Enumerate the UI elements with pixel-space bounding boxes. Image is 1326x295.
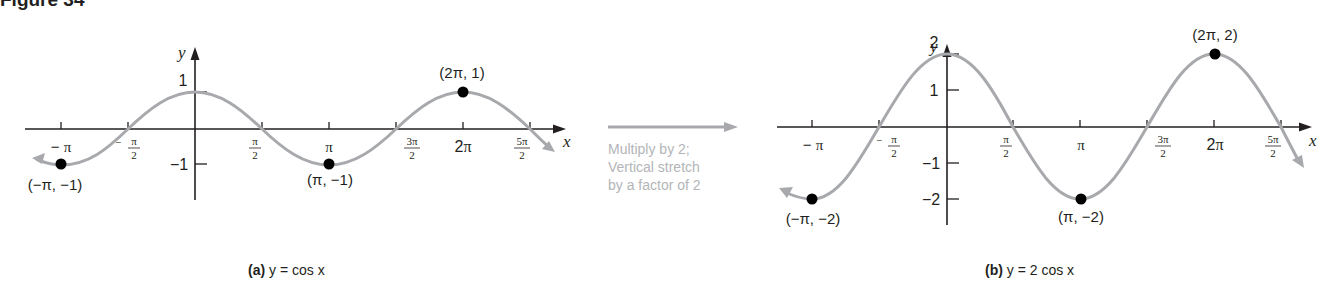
panel-b-y-label-neg1: −1 [922,155,940,172]
panel-b-x-label-neg-pi-over-2: − π 2 [876,133,900,159]
panel-a-y-label-1: 1 [179,72,188,89]
panel-b-graph: (−π, −2) (π, −2) (2π, 2) − π − π 2 π 2 π… [777,26,1317,227]
svg-text:2: 2 [1003,147,1009,159]
svg-text:π: π [131,135,137,147]
transform-arrow-icon [724,122,738,132]
panel-b-point-neg-pi [807,194,818,205]
panel-a-point-label-pi: (π, −1) [307,171,353,188]
panel-a-y-axis-arrow-icon [191,47,200,60]
panel-b-x-label-3pi-over-2: 3π 2 [1155,133,1171,159]
panel-a-caption: (a) y = cos x [248,262,325,278]
panel-b-curve-left-arrow-icon [779,187,793,198]
panel-b-x-label-neg-pi: − π [803,136,824,153]
panel-b-x-label-5pi-over-2: 5π 2 [1265,133,1281,159]
panel-a-x-label-5pi-over-2: 5π 2 [514,135,530,161]
panel-a-x-label-pi: π [325,139,333,155]
panel-a-point-pi [324,159,335,170]
svg-text:2: 2 [1270,147,1276,159]
svg-text:5π: 5π [1267,133,1279,145]
svg-text:2: 2 [252,149,258,161]
panel-a-x-axis-label: x [562,132,571,151]
svg-text:5π: 5π [516,135,528,147]
svg-text:3π: 3π [406,135,418,147]
panel-a-graph: (−π, −1) (π, −1) (2π, 1) − π − π 2 π 2 π… [25,43,571,200]
panel-a-x-label-neg-pi-over-2: − π 2 [115,135,140,161]
panel-a-caption-tag: (a) [248,262,265,278]
svg-text:−: − [876,134,882,146]
svg-text:2: 2 [409,149,415,161]
panel-a-caption-equation: y = cos x [269,262,325,278]
transform-annotation: Multiply by 2; Vertical stretch by a fac… [608,140,748,194]
transform-line-1: Multiply by 2; [608,140,748,158]
panel-b-point-label-pi: (π, −2) [1058,208,1104,225]
panel-b-point-label-neg-pi: (−π, −2) [786,210,841,227]
svg-text:2: 2 [1160,147,1166,159]
svg-text:2: 2 [891,147,897,159]
panel-b-caption: (b) y = 2 cos x [985,262,1074,278]
panel-b-y-label-1: 1 [930,82,939,99]
panel-b-x-label-2pi: 2π [1207,136,1224,153]
panel-b-point-pi [1076,194,1087,205]
panel-a-point-2pi [458,87,469,98]
panel-b-point-label-2pi: (2π, 2) [1192,26,1237,43]
svg-text:2: 2 [131,149,137,161]
panel-a-y-label-neg1: −1 [170,156,188,173]
panel-a-point-label-neg-pi: (−π, −1) [28,176,83,193]
svg-text:−: − [115,136,121,148]
panel-b-y-axis-label: y [928,37,938,56]
transform-line-3: by a factor of 2 [608,176,748,194]
svg-text:2: 2 [519,149,525,161]
panel-b-point-2pi [1210,49,1221,60]
panel-a-point-label-2pi: (2π, 1) [439,64,484,81]
transform-line-2: Vertical stretch [608,158,748,176]
panel-a-y-axis-label: y [176,43,186,62]
panel-a-x-label-neg-pi: − π [51,138,72,155]
panel-a-x-label-2pi: 2π [455,138,472,155]
svg-text:π: π [1003,133,1009,145]
panel-b-caption-equation: y = 2 cos x [1007,262,1074,278]
panel-b-caption-tag: (b) [985,262,1003,278]
panel-b-y-label-neg2: −2 [922,191,940,208]
svg-text:π: π [891,133,897,145]
panel-a-x-label-pi-over-2: π 2 [249,135,261,161]
panel-b-x-label-pi: π [1077,137,1085,153]
panel-a-x-label-3pi-over-2: 3π 2 [404,135,420,161]
panel-b-x-axis-label: x [1308,131,1317,150]
transform-arrow [608,122,738,132]
svg-text:π: π [252,135,258,147]
panel-a-point-neg-pi [56,159,67,170]
svg-text:3π: 3π [1157,133,1169,145]
panel-b-x-label-pi-over-2: π 2 [1000,133,1012,159]
